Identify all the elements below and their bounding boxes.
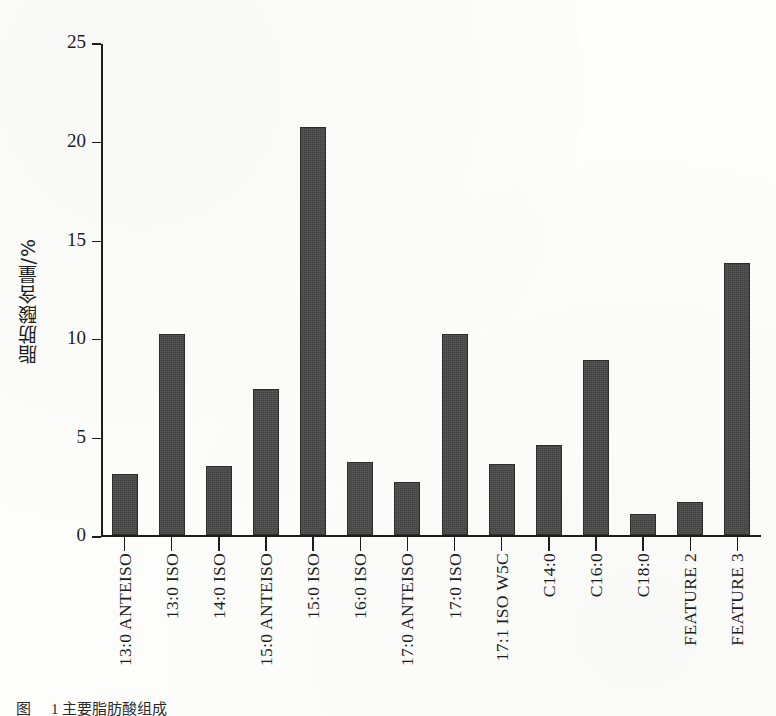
y-axis-tick-label: 20 xyxy=(67,131,86,151)
x-axis-category-label: 14:0 ISO xyxy=(210,553,228,619)
bar xyxy=(394,482,420,535)
x-axis-category-label: C18:0 xyxy=(634,553,652,597)
bar xyxy=(489,464,515,535)
x-axis-category-label: C16:0 xyxy=(587,553,605,597)
x-axis-category-label: 15:0 ISO xyxy=(304,553,322,619)
bar xyxy=(536,445,562,536)
y-axis-tick: 15 xyxy=(92,241,101,242)
x-axis-category-label: 17:0 ANTEISO xyxy=(398,553,416,666)
bar xyxy=(300,127,326,535)
figure-caption-text: 1 主要脂肪酸组成 xyxy=(51,701,167,716)
y-axis-tick-label: 25 xyxy=(67,32,86,52)
x-axis-category-label: 13:0 ISO xyxy=(163,553,181,619)
y-axis-tick-label: 0 xyxy=(77,525,87,545)
bar xyxy=(112,474,138,535)
y-axis-tick-label: 10 xyxy=(67,328,86,348)
bar xyxy=(347,462,373,535)
bar xyxy=(630,514,656,536)
bar xyxy=(677,502,703,536)
bar xyxy=(253,389,279,535)
plot-area: 0510152025 xyxy=(101,44,761,537)
bar xyxy=(442,334,468,535)
y-axis-tick: 5 xyxy=(92,438,101,439)
x-axis-category-label: C14:0 xyxy=(540,553,558,597)
x-axis-category-label: 17:1 ISO W5C xyxy=(493,553,511,661)
y-axis-tick: 20 xyxy=(92,142,101,143)
bar xyxy=(583,360,609,536)
y-axis-title: 脂肪酸含量/% xyxy=(14,238,54,364)
x-category-label-layer: 13:0 ANTEISO13:0 ISO14:0 ISO15:0 ANTEISO… xyxy=(101,537,761,702)
x-axis-category-label: 13:0 ANTEISO xyxy=(116,553,134,666)
x-axis-category-label: 16:0 ISO xyxy=(351,553,369,619)
bar xyxy=(159,334,185,535)
figure-caption: 图1 主要脂肪酸组成 xyxy=(16,700,760,716)
y-axis-tick: 10 xyxy=(92,339,101,340)
x-axis-category-label: FEATURE 3 xyxy=(728,553,746,646)
y-axis-tick: 25 xyxy=(92,43,101,44)
y-axis-line xyxy=(101,44,103,537)
x-axis-category-label: FEATURE 2 xyxy=(681,553,699,646)
x-axis-category-label: 15:0 ANTEISO xyxy=(257,553,275,666)
y-axis-tick-label: 5 xyxy=(77,427,87,447)
x-axis-category-label: 17:0 ISO xyxy=(446,553,464,619)
bar xyxy=(724,263,750,535)
figure-container: 脂肪酸含量/% 0510152025 13:0 ANTEISO13:0 ISO1… xyxy=(0,0,776,716)
figure-caption-label: 图 xyxy=(16,701,31,716)
y-axis-tick-label: 15 xyxy=(67,230,86,250)
y-axis-tick: 0 xyxy=(92,536,101,537)
bar xyxy=(206,466,232,535)
